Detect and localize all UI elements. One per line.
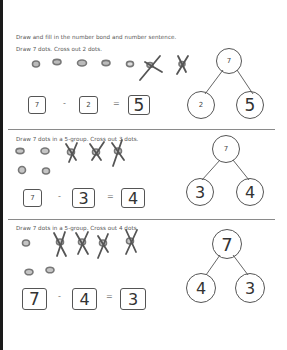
equals-sign: = <box>113 99 120 108</box>
dots-problem-1 <box>33 59 186 67</box>
bond-part1-circle[interactable]: 2 <box>187 91 215 119</box>
minus-sign: - <box>63 99 66 108</box>
subtrahend-box[interactable]: 2 <box>79 96 98 114</box>
bond-part1-circle[interactable]: 4 <box>186 273 216 303</box>
minus-sign: - <box>58 292 61 301</box>
equals-sign: = <box>106 292 113 301</box>
bond-part2-circle[interactable]: 4 <box>236 178 264 206</box>
subtrahend-box[interactable]: 3 <box>72 188 95 208</box>
bond-part2-circle[interactable]: 5 <box>236 91 264 119</box>
bond-whole-circle[interactable]: 7 <box>212 135 240 163</box>
instruction: Draw and fill in the number bond and num… <box>16 34 176 40</box>
scan-edge <box>0 0 3 350</box>
subtrahend-box[interactable]: 4 <box>72 288 97 310</box>
equals-sign: = <box>107 192 114 201</box>
minuend-box[interactable]: 7 <box>28 96 46 114</box>
difference-box[interactable]: 3 <box>120 288 146 310</box>
difference-box[interactable]: 4 <box>121 188 145 208</box>
bond-whole-circle[interactable]: 7 <box>216 48 242 74</box>
bond-part1-circle[interactable]: 3 <box>186 178 214 206</box>
problem-prompt: Draw 7 dots in a 5-group. Cross out 4 do… <box>16 225 138 231</box>
minus-sign: - <box>58 192 61 201</box>
bond-whole-circle[interactable]: 7 <box>212 229 242 259</box>
bond-part2-circle[interactable]: 3 <box>235 273 265 303</box>
minuend-box[interactable]: 7 <box>23 189 42 207</box>
minuend-box[interactable]: 7 <box>22 288 47 310</box>
problem-prompt: Draw 7 dots in a 5-group. Cross out 3 do… <box>16 136 138 142</box>
section-divider <box>8 129 275 130</box>
section-divider <box>8 219 275 220</box>
problem-prompt: Draw 7 dots. Cross out 2 dots. <box>16 46 102 52</box>
difference-box[interactable]: 5 <box>128 95 150 115</box>
